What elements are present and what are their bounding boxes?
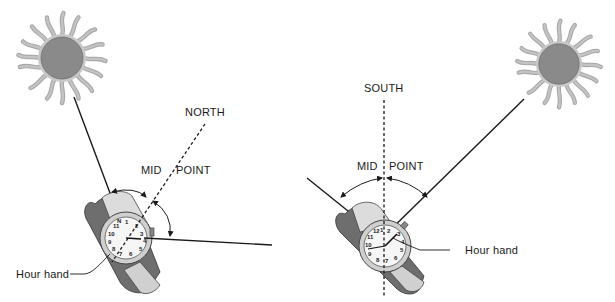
angle-arc-right-1: [341, 178, 382, 197]
angle-arc-left-2: [153, 201, 170, 236]
svg-text:10: 10: [108, 231, 115, 237]
svg-text:N: N: [117, 218, 121, 224]
hour-hand-label-right: Hour hand: [465, 244, 518, 256]
watch-right: 123 456 789 101112: [336, 202, 424, 294]
point-label-right: POINT: [389, 160, 424, 172]
hour-hand-label-left: Hour hand: [16, 268, 69, 280]
south-label: SOUTH: [364, 82, 404, 94]
hour-hand-leader-left: [70, 254, 110, 274]
point-label-left: POINT: [176, 164, 211, 176]
sun-icon-right: [517, 21, 601, 107]
diagram-canvas: 123 456 789 1011N 123 456 789 101: [0, 0, 615, 302]
sun-icon-left: [19, 13, 106, 103]
mid-label-left: MID: [141, 164, 162, 176]
north-label: NORTH: [185, 106, 225, 118]
mid-label-right: MID: [357, 160, 378, 172]
svg-text:10: 10: [365, 242, 372, 248]
svg-text:11: 11: [367, 234, 374, 240]
svg-text:12: 12: [373, 228, 380, 234]
hour-hand-line-left: [144, 238, 272, 245]
angle-arc-right-2: [387, 178, 427, 197]
